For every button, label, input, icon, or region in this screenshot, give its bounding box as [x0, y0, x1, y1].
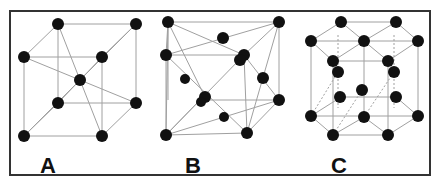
panel-label-c: C	[331, 153, 347, 179]
panel-label-b: B	[185, 153, 201, 179]
crystal-lattice-diagrams	[0, 0, 439, 185]
panel-label-a: A	[40, 153, 56, 179]
